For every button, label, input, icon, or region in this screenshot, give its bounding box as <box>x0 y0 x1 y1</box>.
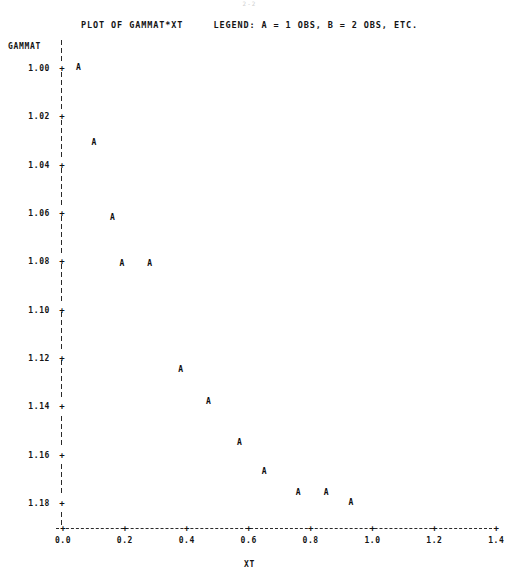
y-axis-dash <box>61 384 62 389</box>
data-point-marker: A <box>145 259 155 269</box>
data-point-marker: A <box>346 498 356 508</box>
y-axis-dash <box>61 224 62 229</box>
y-axis-dash <box>61 464 62 469</box>
data-point-marker: A <box>89 138 99 148</box>
y-axis-dash <box>61 144 62 149</box>
y-axis-dash <box>61 248 62 253</box>
y-axis-tick-mark: + <box>58 209 66 217</box>
y-axis-dash <box>61 424 62 429</box>
y-axis-tick-mark: + <box>58 306 66 314</box>
x-axis-tick-label: 0.6 <box>229 536 269 545</box>
data-point-marker: A <box>293 488 303 498</box>
y-axis-dash <box>61 176 62 181</box>
y-axis-dash <box>61 488 62 493</box>
x-axis-tick-label: 1.4 <box>476 536 509 545</box>
x-axis-tick-label: 0.8 <box>291 536 331 545</box>
y-axis-dash <box>61 288 62 293</box>
x-axis-tick-mark: + <box>245 524 253 533</box>
y-axis-dash <box>61 472 62 477</box>
y-axis-tick-label: 1.12 <box>8 354 50 363</box>
y-axis-tick-mark: + <box>58 161 66 169</box>
y-axis-tick-label: 1.02 <box>8 112 50 121</box>
y-axis-dash <box>61 152 62 157</box>
y-axis-dash <box>61 440 62 445</box>
y-axis-dash <box>61 512 62 517</box>
y-axis-dash <box>61 432 62 437</box>
y-axis-dash <box>61 368 62 373</box>
y-axis-dash <box>61 280 62 285</box>
data-point-marker: A <box>73 63 83 73</box>
x-axis-tick-label: 0.2 <box>105 536 145 545</box>
y-axis-dash <box>61 344 62 349</box>
y-axis-dash <box>61 296 62 301</box>
x-axis-tick-mark: + <box>492 524 500 533</box>
y-axis-dash <box>61 96 62 101</box>
data-point-marker: A <box>117 259 127 269</box>
data-point-marker: A <box>259 467 269 477</box>
y-axis-dash <box>61 88 62 93</box>
y-axis-tick-label: 1.14 <box>8 402 50 411</box>
data-point-marker: A <box>203 397 213 407</box>
x-axis-tick-label: 1.0 <box>353 536 393 545</box>
y-axis-tick-label: 1.10 <box>8 306 50 315</box>
y-axis-dash <box>61 200 62 205</box>
data-point-marker: A <box>234 438 244 448</box>
y-axis-tick-label: 1.00 <box>8 64 50 73</box>
y-axis-dash <box>61 328 62 333</box>
data-point-marker: A <box>321 488 331 498</box>
y-axis-tick-label: 1.06 <box>8 209 50 218</box>
x-axis-tick-mark: + <box>369 524 377 533</box>
y-axis-dash <box>61 320 62 325</box>
y-axis-tick-label: 1.08 <box>8 257 50 266</box>
y-axis-tick-label: 1.16 <box>8 451 50 460</box>
y-axis-dash <box>61 192 62 197</box>
y-axis-dash <box>61 336 62 341</box>
x-axis-tick-mark: + <box>121 524 129 533</box>
data-point-marker: A <box>176 365 186 375</box>
y-axis-tick-mark: + <box>58 64 66 72</box>
y-axis-tick-mark: + <box>58 402 66 410</box>
y-axis-dash <box>61 104 62 109</box>
y-axis-dash <box>61 240 62 245</box>
y-axis-dash <box>61 136 62 141</box>
y-axis-tick-label: 1.04 <box>8 161 50 170</box>
y-axis-dash <box>61 80 62 85</box>
x-axis-tick-label: 0.0 <box>43 536 83 545</box>
y-axis-dash <box>61 232 62 237</box>
x-axis-tick-mark: + <box>307 524 315 533</box>
y-axis-dash <box>61 184 62 189</box>
y-axis-dash <box>61 40 62 45</box>
y-axis-tick-mark: + <box>58 112 66 120</box>
y-axis-dash <box>61 56 62 61</box>
y-axis-tick-mark: + <box>58 499 66 507</box>
x-axis-tick-mark: + <box>430 524 438 533</box>
x-axis-tick-mark: + <box>183 524 191 533</box>
y-axis-tick-mark: + <box>58 257 66 265</box>
y-axis-tick-mark: + <box>58 451 66 459</box>
y-axis-tick-label: 1.18 <box>8 499 50 508</box>
y-axis-dash <box>61 480 62 485</box>
x-axis-tick-label: 0.4 <box>167 536 207 545</box>
x-axis-tick-mark: + <box>59 524 67 533</box>
y-axis-dash <box>61 376 62 381</box>
y-axis-dash <box>61 128 62 133</box>
data-point-marker: A <box>108 213 118 223</box>
y-axis-dash <box>61 48 62 53</box>
y-axis-dash <box>61 392 62 397</box>
x-axis-tick-label: 1.2 <box>414 536 454 545</box>
y-axis-tick-mark: + <box>58 354 66 362</box>
y-axis-dash <box>61 416 62 421</box>
y-axis-dash <box>61 272 62 277</box>
